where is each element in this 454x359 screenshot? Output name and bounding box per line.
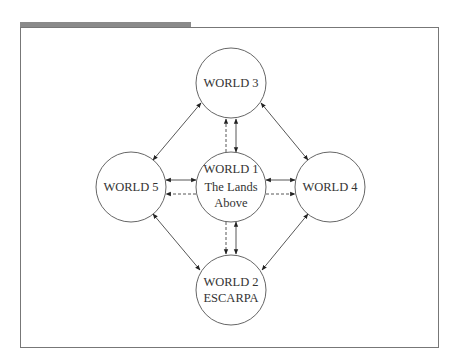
label-world-5: WORLD 5 — [103, 180, 158, 194]
edge-w3-w5 — [153, 103, 201, 160]
label-world-2-line2: ESCARPA — [203, 291, 258, 305]
label-world-2-line1: WORLD 2 — [203, 275, 258, 289]
edge-w3-w4 — [261, 103, 308, 160]
label-world-3: WORLD 3 — [203, 76, 258, 90]
world-diagram: WORLD 3 WORLD 1 The Lands Above WORLD 5 … — [0, 0, 454, 359]
edge-w2-w5 — [153, 214, 200, 270]
label-world-1-line3: Above — [214, 196, 248, 210]
node-world-2 — [196, 255, 266, 325]
label-world-4: WORLD 4 — [302, 180, 358, 194]
edge-w2-w4 — [262, 214, 308, 270]
label-world-1-line1: WORLD 1 — [203, 162, 258, 176]
label-world-1-line2: The Lands — [204, 180, 257, 194]
